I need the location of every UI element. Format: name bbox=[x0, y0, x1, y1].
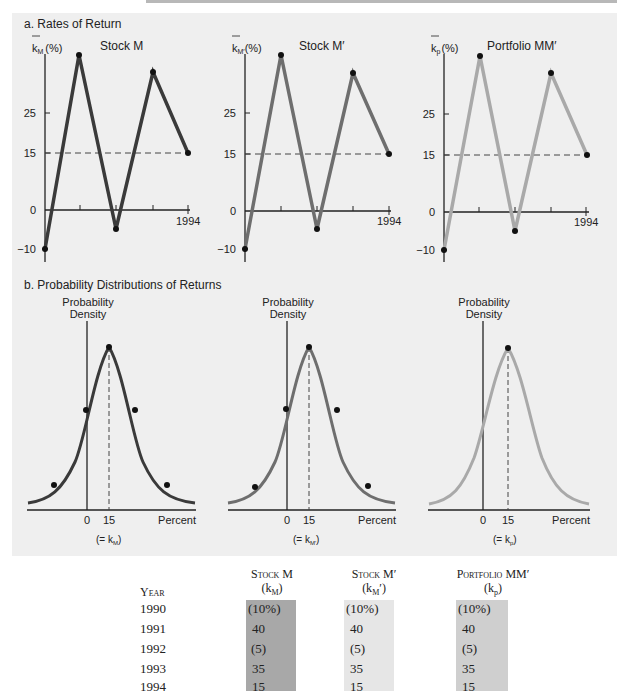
year-cell: 1990 bbox=[140, 601, 166, 617]
svg-text:Percent: Percent bbox=[358, 514, 396, 526]
stock-m-cell: (10%) bbox=[248, 601, 281, 617]
section-a-title: a. Rates of Return bbox=[24, 17, 121, 31]
year-cell: 1993 bbox=[140, 661, 166, 677]
svg-text:0: 0 bbox=[284, 514, 290, 526]
stock-mp-cell: 35 bbox=[350, 661, 363, 677]
svg-text:Probability: Probability bbox=[62, 296, 114, 308]
svg-text:1994: 1994 bbox=[176, 215, 200, 227]
chart-stock-m: kM(%) Stock M 25 15 0 −10 1994 bbox=[17, 36, 200, 262]
svg-text:25: 25 bbox=[423, 108, 435, 120]
chart-title-m: Stock M bbox=[100, 39, 143, 53]
stock-mp-cell: (10%) bbox=[346, 601, 379, 617]
portfolio-cell: 15 bbox=[462, 679, 475, 691]
density-curve bbox=[28, 347, 195, 503]
svg-text:15: 15 bbox=[24, 147, 36, 159]
portfolio-cell: 40 bbox=[462, 621, 475, 637]
y-axis-label-p: kp(%) bbox=[431, 42, 459, 56]
svg-text:Percent: Percent bbox=[158, 514, 196, 526]
svg-text:25: 25 bbox=[24, 107, 36, 119]
return-line bbox=[444, 56, 587, 250]
svg-text:0: 0 bbox=[230, 205, 236, 217]
chart-title-p: Portfolio MM′ bbox=[487, 39, 557, 53]
stock-mp-cell: 15 bbox=[350, 679, 363, 691]
returns-table: Year Stock M (kM) Stock M′ (kM′) Portfol… bbox=[0, 555, 617, 691]
svg-text:Density: Density bbox=[466, 308, 503, 320]
svg-text:15: 15 bbox=[423, 149, 435, 161]
mean-label: (= kM) bbox=[96, 534, 121, 546]
svg-text:−10: −10 bbox=[416, 244, 435, 256]
stock-m-cell: 15 bbox=[252, 679, 265, 691]
svg-text:Density: Density bbox=[70, 308, 107, 320]
header-stock-m-prime: Stock M′ (kM′) bbox=[334, 567, 414, 600]
header-stock-m: Stock M (kM) bbox=[232, 567, 312, 600]
distribution-portfolio: Probability Density 0 15 Percent (= kp) bbox=[428, 296, 590, 546]
svg-text:Probability: Probability bbox=[262, 296, 314, 308]
svg-text:(= kM′): (= kM′) bbox=[293, 534, 319, 546]
portfolio-cell: 35 bbox=[462, 661, 475, 677]
svg-text:15: 15 bbox=[103, 514, 115, 526]
chart-portfolio: kp(%) Portfolio MM′ 25 15 0 −10 1994 bbox=[416, 36, 598, 262]
svg-text:0: 0 bbox=[30, 204, 36, 216]
svg-text:−10: −10 bbox=[217, 243, 236, 255]
svg-text:15: 15 bbox=[502, 514, 514, 526]
svg-text:Density: Density bbox=[270, 308, 307, 320]
svg-text:−10: −10 bbox=[17, 243, 36, 255]
density-curve bbox=[429, 348, 589, 504]
svg-text:0: 0 bbox=[429, 206, 435, 218]
portfolio-cell: (10%) bbox=[458, 601, 491, 617]
stock-m-cell: 40 bbox=[252, 621, 265, 637]
density-curve bbox=[228, 347, 395, 503]
svg-text:1994: 1994 bbox=[574, 216, 598, 228]
stock-m-cell: (5) bbox=[251, 641, 266, 657]
svg-text:Probability: Probability bbox=[458, 296, 510, 308]
stock-m-cell: 35 bbox=[252, 661, 265, 677]
distribution-stock-m: Probability Density 0 15 Percent (= kM) bbox=[27, 296, 196, 546]
stock-mp-cell: 40 bbox=[350, 621, 363, 637]
svg-text:0: 0 bbox=[84, 514, 90, 526]
y-axis-label-m: kM(%) bbox=[32, 42, 62, 55]
year-cell: 1992 bbox=[140, 641, 166, 657]
portfolio-cell: (5) bbox=[462, 641, 477, 657]
section-b-title: b. Probability Distributions of Returns bbox=[24, 278, 221, 292]
svg-text:25: 25 bbox=[224, 107, 236, 119]
y-axis-label-mp: kM′(%) bbox=[232, 42, 262, 55]
svg-text:15: 15 bbox=[224, 148, 236, 160]
svg-text:Percent: Percent bbox=[552, 514, 590, 526]
svg-text:(= kp): (= kp) bbox=[493, 534, 517, 546]
chart-stock-m-prime: kM′(%) Stock M′ 25 15 0 −10 1994 bbox=[217, 36, 401, 262]
stock-mp-cell: (5) bbox=[350, 641, 365, 657]
figure-svg: a. Rates of Return b. Probability Distri… bbox=[0, 0, 617, 560]
chart-title-mp: Stock M′ bbox=[299, 39, 345, 53]
header-year: Year bbox=[140, 585, 190, 599]
distribution-stock-m-prime: Probability Density 0 15 Percent (= kM′) bbox=[228, 296, 396, 546]
return-line bbox=[245, 55, 389, 249]
svg-text:15: 15 bbox=[303, 514, 315, 526]
header-portfolio: Portfolio MM′ (kp) bbox=[438, 567, 548, 600]
return-line bbox=[45, 55, 188, 249]
svg-text:1994: 1994 bbox=[377, 215, 401, 227]
svg-text:0: 0 bbox=[480, 514, 486, 526]
year-cell: 1991 bbox=[140, 621, 166, 637]
year-cell: 1994 bbox=[140, 679, 166, 691]
